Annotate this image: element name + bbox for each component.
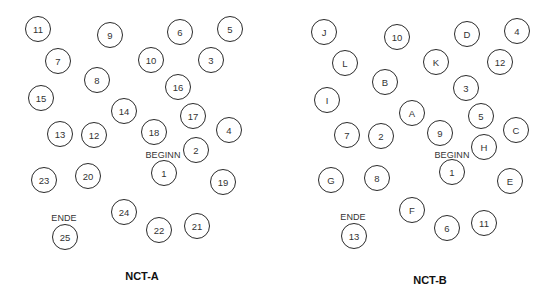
circle-node-14[interactable]: 14 xyxy=(111,98,137,124)
circle-node-16[interactable]: 16 xyxy=(165,74,191,100)
end-label: ENDE xyxy=(51,213,76,223)
circle-node-1[interactable]: 1 xyxy=(439,159,465,185)
circle-node-I[interactable]: I xyxy=(314,87,340,113)
circle-node-11[interactable]: 11 xyxy=(25,16,51,42)
circle-node-3[interactable]: 3 xyxy=(453,75,479,101)
circle-node-7[interactable]: 7 xyxy=(45,48,71,74)
circle-node-18[interactable]: 18 xyxy=(141,119,167,145)
circle-node-D[interactable]: D xyxy=(454,21,480,47)
circle-node-12[interactable]: 12 xyxy=(487,49,513,75)
start-label: BEGINN xyxy=(434,150,469,160)
circle-node-10[interactable]: 10 xyxy=(384,24,410,50)
circle-node-5[interactable]: 5 xyxy=(468,103,494,129)
circle-node-2[interactable]: 2 xyxy=(183,137,209,163)
panel-title: NCT-A xyxy=(125,270,159,282)
circle-node-J[interactable]: J xyxy=(311,19,337,45)
circle-node-5[interactable]: 5 xyxy=(217,16,243,42)
circle-node-6[interactable]: 6 xyxy=(167,19,193,45)
start-label: BEGINN xyxy=(145,150,180,160)
circle-node-13[interactable]: 13 xyxy=(47,121,73,147)
circle-node-G[interactable]: G xyxy=(318,167,344,193)
circle-node-3[interactable]: 3 xyxy=(198,47,224,73)
circle-node-A[interactable]: A xyxy=(399,100,425,126)
circle-node-4[interactable]: 4 xyxy=(504,18,530,44)
circle-node-H[interactable]: H xyxy=(471,134,497,160)
circle-node-F[interactable]: F xyxy=(399,197,425,223)
circle-node-19[interactable]: 19 xyxy=(210,169,236,195)
circle-node-9[interactable]: 9 xyxy=(97,22,123,48)
circle-node-8[interactable]: 8 xyxy=(364,165,390,191)
circle-node-17[interactable]: 17 xyxy=(180,103,206,129)
circle-node-22[interactable]: 22 xyxy=(146,217,172,243)
circle-node-24[interactable]: 24 xyxy=(111,199,137,225)
circle-node-13[interactable]: 13 xyxy=(341,223,367,249)
circle-node-8[interactable]: 8 xyxy=(84,67,110,93)
circle-node-E[interactable]: E xyxy=(497,168,523,194)
end-label: ENDE xyxy=(340,212,365,222)
circle-node-B[interactable]: B xyxy=(372,69,398,95)
circle-node-C[interactable]: C xyxy=(503,117,529,143)
circle-node-6[interactable]: 6 xyxy=(434,215,460,241)
circle-node-4[interactable]: 4 xyxy=(216,117,242,143)
circle-node-L[interactable]: L xyxy=(332,50,358,76)
circle-node-9[interactable]: 9 xyxy=(427,120,453,146)
circle-node-1[interactable]: 1 xyxy=(151,160,177,186)
panel-title: NCT-B xyxy=(413,274,447,284)
circle-node-21[interactable]: 21 xyxy=(184,213,210,239)
circle-node-15[interactable]: 15 xyxy=(28,85,54,111)
circle-node-7[interactable]: 7 xyxy=(334,122,360,148)
circle-node-25[interactable]: 25 xyxy=(52,224,78,250)
circle-node-2[interactable]: 2 xyxy=(368,123,394,149)
circle-node-12[interactable]: 12 xyxy=(81,122,107,148)
circle-node-23[interactable]: 23 xyxy=(31,167,57,193)
circle-node-K[interactable]: K xyxy=(423,49,449,75)
circle-node-20[interactable]: 20 xyxy=(75,163,101,189)
circle-node-11[interactable]: 11 xyxy=(471,210,497,236)
circle-node-10[interactable]: 10 xyxy=(138,47,164,73)
